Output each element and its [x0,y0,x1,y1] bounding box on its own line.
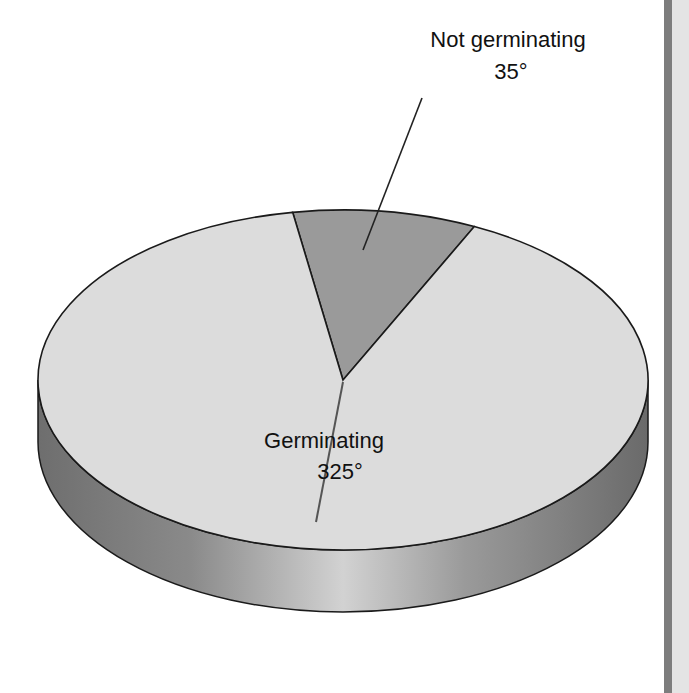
slice-value-germinating: 325° [317,459,363,484]
page-edge-bar [664,0,672,693]
page-edge-panel [672,0,689,693]
slice-value-not-germinating: 35° [494,59,527,84]
pie-chart: Not germinating 35° Germinating 325° [0,0,664,693]
slice-label-germinating: Germinating [264,428,384,453]
slice-label-not-germinating: Not germinating [430,27,585,52]
